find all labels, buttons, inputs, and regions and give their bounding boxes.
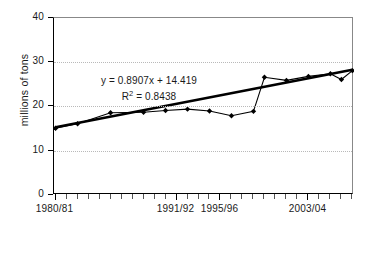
x-tick-mark [187,194,188,199]
trendline-equation-line: y = 0.8907x + 14.419 [88,74,210,87]
x-tick-mark [340,194,341,199]
x-tick-mark [318,194,319,199]
data-point-marker [251,109,256,114]
x-tick-mark [198,194,199,199]
x-tick-mark [88,194,89,199]
gridline-10 [54,151,352,152]
x-tick-mark [274,194,275,199]
x-tick-mark [132,194,133,199]
x-tick-label: 2003/04 [289,203,327,214]
x-tick-mark [121,194,122,199]
x-tick-mark [307,194,308,200]
x-tick-mark [296,194,297,199]
x-tick-label: 1980/81 [36,203,74,214]
x-tick-label: 1995/96 [201,203,239,214]
y-tick-label-10: 10 [20,145,44,155]
x-tick-mark [351,194,352,199]
data-point-marker [163,108,168,113]
x-tick-mark [77,194,78,199]
r-squared-exponent: 2 [129,89,133,98]
y-tick-mark-0 [48,194,53,195]
data-point-marker [185,106,190,111]
x-tick-mark [263,194,264,199]
x-tick-mark [143,194,144,199]
x-tick-mark [99,194,100,199]
y-axis-title: millions of tons [18,35,30,145]
data-point-marker [262,75,267,80]
x-tick-mark [154,194,155,199]
x-tick-mark [208,194,209,199]
gridline-30 [54,62,352,63]
y-tick-label-40: 40 [20,12,44,22]
x-tick-mark [329,194,330,199]
x-tick-mark [285,194,286,199]
plot-area [53,17,353,194]
x-tick-mark [165,194,166,199]
trendline-equation-annotation: y = 0.8907x + 14.419 R2 = 0.8438 [88,74,210,103]
x-tick-mark [110,194,111,199]
data-point-marker [207,108,212,113]
data-point-marker [108,110,113,115]
chart-container: millions of tons 40 30 20 10 0 y = 0.890… [0,0,370,255]
x-tick-mark [55,194,56,200]
x-tick-mark [252,194,253,199]
x-tick-mark [176,194,177,200]
r-squared-line: R2 = 0.8438 [88,87,210,103]
x-tick-mark [241,194,242,199]
r-squared-value: = 0.8438 [136,91,176,102]
gridline-20 [54,106,352,107]
y-tick-label-0: 0 [20,189,44,199]
data-point-marker [229,113,234,118]
y-tick-label-20: 20 [20,100,44,110]
r-squared-symbol: R [122,91,129,102]
x-tick-mark [219,194,220,200]
x-tick-label: 1991/92 [157,203,195,214]
x-tick-mark [66,194,67,199]
x-tick-mark [230,194,231,199]
y-tick-label-30: 30 [20,56,44,66]
